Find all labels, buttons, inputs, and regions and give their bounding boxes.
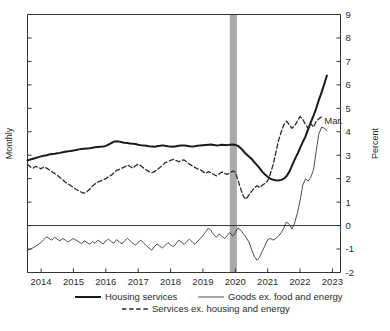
left-axis-label: Monthly bbox=[4, 127, 14, 159]
y-tick-label: 6 bbox=[346, 79, 351, 90]
legend-label-0: Housing services bbox=[105, 291, 178, 302]
x-tick-label: 2023 bbox=[322, 276, 343, 287]
annotations-group: Mar. bbox=[324, 115, 342, 126]
x-tick-label: 2017 bbox=[128, 276, 149, 287]
x-tick-label: 2015 bbox=[63, 276, 84, 287]
legend-label-1: Goods ex. food and energy bbox=[228, 291, 343, 302]
y-tick-label: 2 bbox=[346, 173, 351, 184]
x-tick-label: 2014 bbox=[31, 276, 52, 287]
right-axis-label: Percent bbox=[370, 127, 380, 159]
legend-label-2: Services ex. housing and energy bbox=[152, 303, 290, 314]
y-tick-label: 0 bbox=[346, 220, 351, 231]
x-tick-label: 2020 bbox=[225, 276, 246, 287]
y-tick-label: -1 bbox=[346, 243, 354, 254]
y-tick-label: 4 bbox=[346, 126, 351, 137]
chart-container: -2-10123456789 2014201520162017201820192… bbox=[0, 0, 390, 331]
x-tick-label: 2018 bbox=[160, 276, 181, 287]
y-tick-label: 8 bbox=[346, 32, 351, 43]
line-chart: -2-10123456789 2014201520162017201820192… bbox=[0, 0, 390, 331]
y-tick-label: 1 bbox=[346, 197, 351, 208]
x-tick-label: 2019 bbox=[192, 276, 213, 287]
y-tick-label: 5 bbox=[346, 103, 351, 114]
x-tick-label: 2016 bbox=[95, 276, 116, 287]
y-tick-label: -2 bbox=[346, 267, 354, 278]
y-tick-label: 7 bbox=[346, 56, 351, 67]
y-tick-label: 9 bbox=[346, 9, 351, 20]
x-tick-label: 2021 bbox=[257, 276, 278, 287]
x-tick-label: 2022 bbox=[289, 276, 310, 287]
annotation-mar: Mar. bbox=[324, 115, 342, 126]
y-tick-label: 3 bbox=[346, 150, 351, 161]
